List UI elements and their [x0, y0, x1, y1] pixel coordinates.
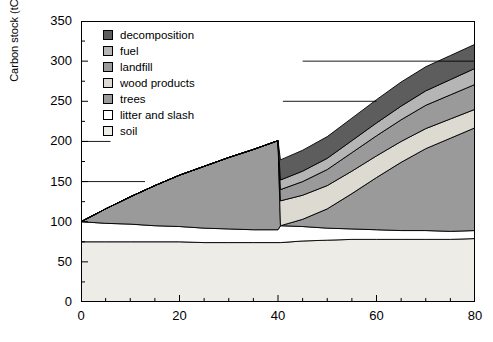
- y-tick-50: 50: [32, 257, 72, 267]
- carbon-stock-chart: Carbon stock (tC.hm-2) 05010015020025030…: [0, 0, 493, 342]
- legend-swatch-icon: [103, 62, 113, 72]
- y-tick-150: 150: [32, 177, 72, 187]
- x-tick-20: 20: [160, 311, 200, 321]
- y-tick-350: 350: [32, 16, 72, 26]
- legend-item-fuel: fuel: [103, 43, 233, 58]
- legend-label: landfill: [120, 61, 153, 73]
- area-band-soil: [81, 239, 475, 302]
- legend-item-wood-products: wood products: [103, 75, 233, 90]
- legend-swatch-icon: [103, 126, 113, 136]
- legend-item-litter-and-slash: litter and slash: [103, 107, 233, 122]
- x-tick-60: 60: [357, 311, 397, 321]
- y-tick-250: 250: [32, 96, 72, 106]
- legend-swatch-icon: [103, 30, 113, 40]
- legend-label: wood products: [120, 77, 195, 89]
- y-tick-0: 0: [32, 297, 72, 307]
- y-tick-300: 300: [32, 56, 72, 66]
- x-tick-80: 80: [455, 311, 493, 321]
- y-axis-tick-labels: 050100150200250300350: [18, 0, 72, 342]
- legend-swatch-icon: [103, 94, 113, 104]
- x-axis-tick-labels: 020406080: [0, 311, 493, 333]
- chart-legend: decompositionfuellandfillwood productstr…: [103, 27, 233, 139]
- legend-swatch-icon: [103, 110, 113, 120]
- y-tick-100: 100: [32, 217, 72, 227]
- legend-swatch-icon: [103, 78, 113, 88]
- legend-label: trees: [120, 93, 146, 105]
- y-tick-200: 200: [32, 136, 72, 146]
- legend-label: decomposition: [120, 29, 194, 41]
- legend-label: litter and slash: [120, 109, 194, 121]
- legend-item-soil: soil: [103, 123, 233, 138]
- x-tick-0: 0: [61, 311, 101, 321]
- legend-label: soil: [120, 125, 137, 137]
- legend-swatch-icon: [103, 46, 113, 56]
- legend-item-decomposition: decomposition: [103, 27, 233, 42]
- legend-item-trees: trees: [103, 91, 233, 106]
- x-tick-40: 40: [258, 311, 298, 321]
- legend-item-landfill: landfill: [103, 59, 233, 74]
- legend-label: fuel: [120, 45, 139, 57]
